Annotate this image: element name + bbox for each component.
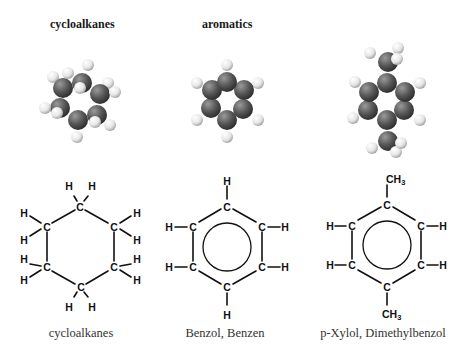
svg-text:H: H [326,220,334,232]
methyl-top: CH3 [386,173,405,187]
svg-text:H: H [326,259,334,271]
header-cycloalkanes: cycloalkanes [50,17,115,31]
caption-p-xylene: p-Xylol, Dimethylbenzol [320,326,446,340]
diagram-canvas: cycloalkanes aromatics [0,0,463,349]
svg-text:C: C [348,220,356,232]
chemistry-diagram: cycloalkanes aromatics [0,0,463,349]
svg-text:H: H [20,207,28,219]
p-xylene-3d-model [347,42,426,158]
cyclohexane-3d-model [39,59,121,143]
caption-benzene: Benzol, Benzen [185,326,265,340]
svg-text:C: C [417,259,425,271]
svg-text:C: C [258,221,266,233]
svg-text:C: C [189,261,197,273]
svg-text:H: H [65,301,73,313]
svg-text:C: C [223,281,231,293]
svg-text:H: H [65,180,73,192]
svg-text:H: H [133,274,141,286]
svg-text:H: H [88,180,96,192]
svg-text:H: H [281,221,289,233]
svg-text:C: C [76,201,84,213]
p-xylene-structural-formula: CH3 C C C C C C H H H H CH3 [326,173,447,322]
svg-text:H: H [20,274,28,286]
svg-text:C: C [43,221,51,233]
svg-text:H: H [223,309,231,321]
svg-text:C: C [348,259,356,271]
svg-text:C: C [383,281,391,293]
svg-text:H: H [88,301,96,313]
svg-text:H: H [133,253,141,265]
svg-text:H: H [133,207,141,219]
svg-text:C: C [110,221,118,233]
svg-text:C: C [383,199,391,211]
svg-text:H: H [20,234,28,246]
svg-text:C: C [77,281,85,293]
svg-text:H: H [165,261,173,273]
header-aromatics: aromatics [202,17,253,31]
svg-text:H: H [439,259,447,271]
svg-text:H: H [20,253,28,265]
cyclohexane-structural-formula: C C C C C C H H H H H H H H H H H H [20,180,141,313]
benzene-structural-formula: H C C C C C C H H H H H [165,175,289,321]
svg-text:C: C [110,261,118,273]
svg-text:H: H [439,220,447,232]
svg-text:H: H [281,261,289,273]
svg-text:H: H [165,221,173,233]
svg-text:C: C [189,221,197,233]
svg-text:H: H [133,234,141,246]
svg-text:C: C [43,261,51,273]
caption-cycloalkanes: cycloalkanes [49,326,114,340]
svg-text:H: H [223,175,231,187]
svg-text:C: C [417,220,425,232]
benzene-3d-model [191,59,264,143]
methyl-bottom: CH3 [382,308,401,322]
svg-text:C: C [223,201,231,213]
svg-text:C: C [258,261,266,273]
